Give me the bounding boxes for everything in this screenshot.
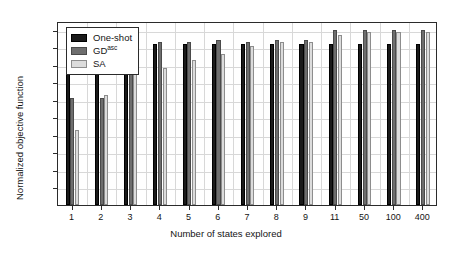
bar-GDasc-11 (333, 30, 337, 205)
gridline-x-6 (233, 23, 234, 205)
gridline-x-9 (321, 23, 322, 205)
legend-row-0: One-shot (71, 32, 132, 44)
bar-GDasc-6 (216, 40, 220, 205)
gridline-x-7 (263, 23, 264, 205)
legend-row-2: SA (71, 58, 132, 70)
bar-SA-1 (75, 130, 79, 205)
x-tick-mark-9 (305, 206, 306, 210)
bar-One-shot-4 (153, 44, 157, 205)
x-tick-mark-7 (247, 206, 248, 210)
y-tick-mark-0.3 (53, 153, 57, 154)
bar-SA-3 (133, 72, 137, 205)
bar-GDasc-1 (70, 98, 74, 205)
x-tick-mark-4 (159, 206, 160, 210)
bar-One-shot-9 (299, 44, 303, 205)
bar-GDasc-50 (363, 30, 367, 205)
bar-SA-50 (367, 32, 371, 205)
gridline-x-4 (175, 23, 176, 205)
bar-SA-100 (396, 32, 400, 205)
bar-GDasc-8 (275, 40, 279, 205)
y-tick-mark-0.8 (53, 66, 57, 67)
gridline-x-11 (380, 23, 381, 205)
bar-One-shot-6 (212, 44, 216, 205)
bar-SA-5 (192, 60, 196, 205)
bar-SA-6 (221, 54, 225, 205)
bar-One-shot-100 (387, 44, 391, 205)
legend-label-1: GDasc (93, 46, 117, 56)
y-tick-mark-0.1 (53, 188, 57, 189)
x-tick-mark-50 (364, 206, 365, 210)
bar-One-shot-7 (241, 44, 245, 205)
figure-canvas: 0.10.20.30.40.50.60.70.80.91 12345678911… (0, 0, 452, 257)
y-tick-mark-0.4 (53, 136, 57, 137)
x-tick-mark-11 (335, 206, 336, 210)
y-tick-mark-0.7 (53, 83, 57, 84)
x-tick-mark-5 (189, 206, 190, 210)
y-tick-mark-0.6 (53, 101, 57, 102)
x-tick-mark-3 (130, 206, 131, 210)
gridline-x-10 (350, 23, 351, 205)
bar-SA-9 (309, 42, 313, 205)
bar-GDasc-7 (246, 42, 250, 205)
x-tick-mark-1 (72, 206, 73, 210)
x-tick-label-400: 400 (402, 212, 442, 222)
gridline-x-3 (146, 23, 147, 205)
gridline-x-5 (204, 23, 205, 205)
bar-One-shot-400 (416, 44, 420, 205)
bar-One-shot-5 (183, 44, 187, 205)
bar-GDasc-100 (392, 30, 396, 205)
bar-GDasc-400 (421, 30, 425, 205)
legend-label-0: One-shot (93, 33, 132, 43)
gridline-x-12 (409, 23, 410, 205)
y-axis-title: Normalized objective function (14, 76, 25, 200)
legend-swatch-1 (71, 47, 87, 55)
bar-GDasc-3 (129, 67, 133, 205)
bar-One-shot-11 (329, 44, 333, 205)
bar-GDasc-9 (304, 40, 308, 205)
bar-GDasc-2 (100, 98, 104, 205)
bar-GDasc-4 (158, 42, 162, 205)
chart-legend: One-shotGDascSA (66, 27, 139, 75)
x-axis-title: Number of states explored (0, 228, 452, 239)
legend-swatch-0 (71, 34, 87, 42)
x-tick-mark-2 (101, 206, 102, 210)
y-tick-mark-0.2 (53, 171, 57, 172)
y-tick-mark-0.5 (53, 118, 57, 119)
bar-SA-11 (338, 35, 342, 205)
legend-label-2: SA (93, 59, 106, 69)
bar-SA-400 (426, 32, 430, 205)
bar-One-shot-8 (270, 44, 274, 205)
bar-SA-2 (104, 95, 108, 205)
bar-SA-7 (250, 46, 254, 205)
bar-SA-8 (280, 42, 284, 205)
legend-swatch-2 (71, 60, 87, 68)
x-tick-mark-6 (218, 206, 219, 210)
legend-row-1: GDasc (71, 45, 132, 57)
bar-GDasc-5 (187, 42, 191, 205)
bar-SA-4 (163, 68, 167, 205)
x-tick-mark-400 (422, 206, 423, 210)
y-tick-mark-0.9 (53, 48, 57, 49)
x-tick-mark-100 (393, 206, 394, 210)
gridline-x-8 (292, 23, 293, 205)
bar-One-shot-50 (358, 44, 362, 205)
x-tick-mark-8 (276, 206, 277, 210)
y-tick-mark-1 (53, 31, 57, 32)
